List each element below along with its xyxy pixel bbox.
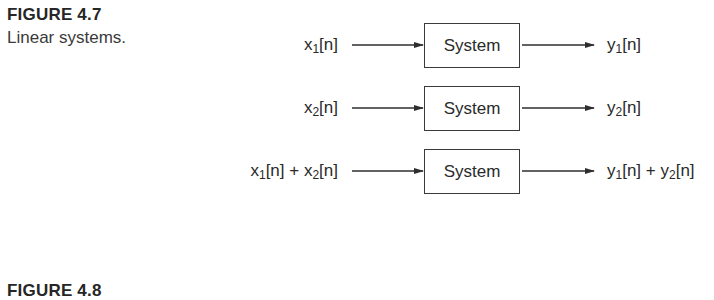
input-label-x2: x2[n] [304, 98, 338, 119]
system-block-3: System [424, 149, 520, 194]
input-label-sum: x1[n] + x2[n] [250, 161, 338, 182]
output-label-y2: y2[n] [607, 98, 641, 119]
input-label-x1: x1[n] [304, 35, 338, 56]
output-label-sum: y1[n] + y2[n] [607, 161, 695, 182]
output-label-y1: y1[n] [607, 35, 641, 56]
figure-4-8-title: FIGURE 4.8 [7, 281, 102, 300]
system-block-1: System [424, 23, 520, 68]
system-block-2: System [424, 86, 520, 131]
